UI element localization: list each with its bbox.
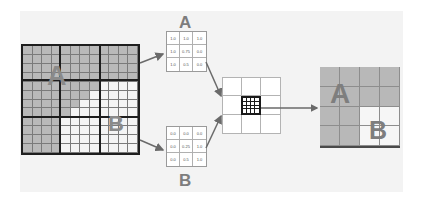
arrow-to-matrix-b [140,140,163,150]
arrow-to-matrix-a [140,54,163,63]
arrow-b-to-grid [206,116,221,148]
arrow-a-to-grid [206,62,221,96]
flow-arrows [0,0,421,201]
